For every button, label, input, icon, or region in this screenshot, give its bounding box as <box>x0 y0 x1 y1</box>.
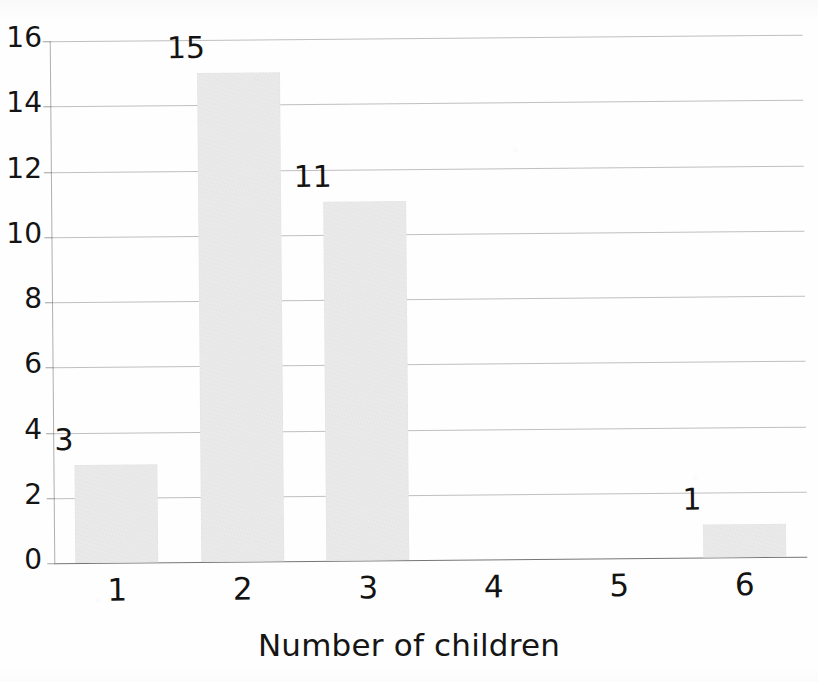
gridline <box>53 361 806 369</box>
y-axis-tick-mark <box>45 302 53 303</box>
y-axis-tick-mark <box>44 237 52 238</box>
y-axis-tick-label: 14 <box>0 89 42 117</box>
scanned-page: 311521134516 0246810121416 Number of chi… <box>0 0 818 682</box>
y-axis-tick-mark <box>47 563 55 564</box>
x-axis-title: Number of children <box>0 630 818 661</box>
gridline <box>51 165 804 173</box>
bar <box>197 72 285 562</box>
y-axis-tick-label: 6 <box>0 350 42 378</box>
y-axis-tick-label: 12 <box>0 155 42 183</box>
bar-value-label: 11 <box>271 162 355 193</box>
gridline <box>53 426 806 434</box>
gridline <box>54 557 807 565</box>
gridline <box>50 100 803 108</box>
x-axis-tick-label: 1 <box>75 574 159 606</box>
x-axis-tick-label: 3 <box>326 572 410 604</box>
bar-value-label: 1 <box>650 485 734 516</box>
y-axis-tick-mark <box>44 172 52 173</box>
y-axis-tick-label: 0 <box>0 546 42 574</box>
bar-chart: 311521134516 0246810121416 Number of chi… <box>0 0 818 682</box>
plot-rotor: 311521134516 <box>0 0 818 682</box>
y-axis-tick-mark <box>43 106 51 107</box>
bar <box>702 524 786 557</box>
gridline <box>51 230 804 238</box>
y-axis-tick-labels: 0246810121416 <box>0 0 42 682</box>
y-axis-tick-label: 2 <box>0 481 42 509</box>
y-axis-tick-label: 16 <box>0 24 42 52</box>
y-axis-tick-mark <box>43 41 51 42</box>
x-axis-tick-label: 6 <box>703 569 787 601</box>
bar-value-label: 15 <box>144 32 228 63</box>
y-axis-tick-mark <box>47 498 55 499</box>
x-axis-tick-label: 2 <box>201 573 285 605</box>
x-axis-tick-label: 5 <box>577 570 661 602</box>
bar <box>323 201 410 561</box>
y-axis-tick-label: 8 <box>0 285 42 313</box>
y-axis-tick-mark <box>46 367 54 368</box>
gridline <box>52 296 805 304</box>
x-axis-tick-label: 4 <box>452 571 536 603</box>
y-axis-tick-label: 10 <box>0 220 42 248</box>
y-axis-tick-label: 4 <box>0 416 42 444</box>
bar <box>74 464 158 563</box>
